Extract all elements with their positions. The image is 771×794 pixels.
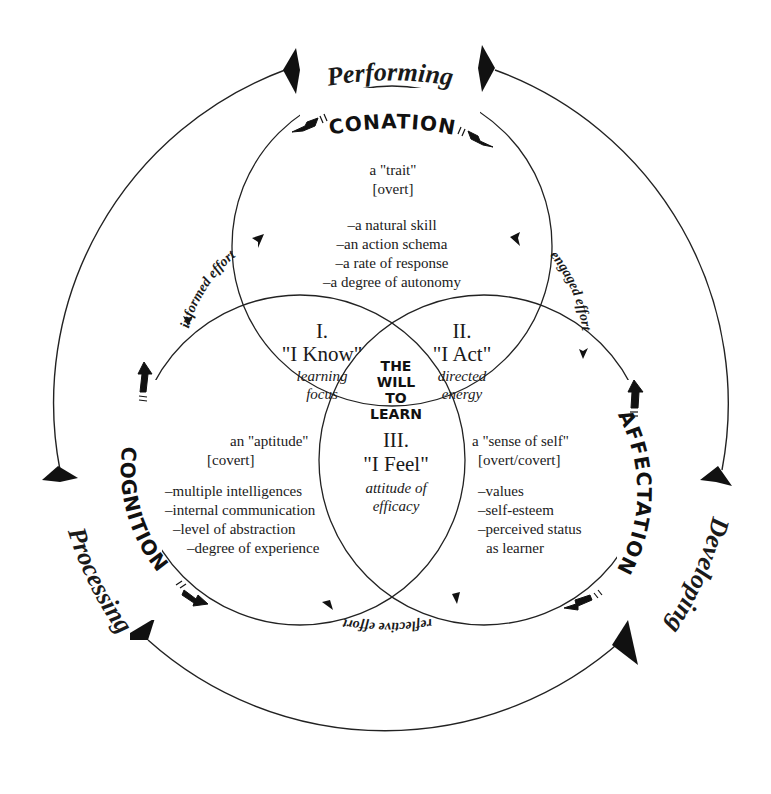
triangle-icon bbox=[579, 348, 588, 359]
informed-effort-label: informed effort bbox=[177, 246, 239, 329]
outer-arc-top-right bbox=[495, 70, 728, 470]
triangle-icon bbox=[322, 600, 333, 610]
conation-item: –an action schema bbox=[336, 236, 448, 252]
cognition-visibility: [covert] bbox=[207, 452, 254, 468]
intersection-title: "I Know" bbox=[282, 342, 363, 366]
developing-label: Developing bbox=[660, 513, 736, 639]
affectation-visibility: [overt/covert] bbox=[478, 452, 560, 468]
will-to-learn-center: THE WILL TO LEARN bbox=[370, 358, 422, 422]
center-line: THE bbox=[381, 358, 412, 374]
outer-arc-top-left bbox=[54, 70, 285, 470]
center-line: WILL bbox=[377, 374, 416, 390]
conation-item: –a rate of response bbox=[335, 255, 449, 271]
affectation-item: –values bbox=[477, 483, 524, 499]
outer-arc-bottom bbox=[148, 640, 622, 731]
triangle-icon bbox=[510, 232, 520, 246]
intersection-subtitle: energy bbox=[442, 386, 483, 402]
intersection-subtitle: attitude of bbox=[365, 480, 428, 496]
intersection-numeral: III. bbox=[383, 428, 409, 452]
intersection-subtitle: efficacy bbox=[373, 498, 420, 514]
affectation-item: –self-esteem bbox=[477, 502, 554, 518]
arrow-head-icon bbox=[283, 48, 300, 94]
arrow-head-icon bbox=[478, 45, 495, 92]
intersection-i-act: II. "I Act" directed energy bbox=[433, 319, 492, 402]
arrow-head-icon bbox=[700, 466, 732, 486]
triangle-icon bbox=[452, 592, 460, 604]
arrow-icon bbox=[468, 131, 493, 147]
triangle-icon bbox=[252, 234, 264, 248]
affectation-description: a "sense of self" [overt/covert] –values… bbox=[472, 433, 582, 556]
reflective-effort-label: reflective effort bbox=[341, 616, 434, 635]
intersection-i-feel: III. "I Feel" attitude of efficacy bbox=[363, 428, 429, 514]
intersection-subtitle: directed bbox=[438, 368, 487, 384]
center-line: LEARN bbox=[370, 406, 422, 422]
cognition-item: –internal communication bbox=[164, 502, 316, 518]
arrow-icon bbox=[182, 590, 208, 606]
conation-type: a "trait" bbox=[370, 162, 417, 178]
affectation-type: a "sense of self" bbox=[472, 433, 569, 449]
center-line: TO bbox=[385, 390, 407, 406]
intersection-title: "I Act" bbox=[433, 342, 492, 366]
conation-item: –a degree of autonomy bbox=[322, 274, 461, 290]
arrow-head-icon bbox=[612, 620, 638, 665]
cognition-type: an "aptitude" bbox=[230, 433, 308, 449]
intersection-subtitle: focus bbox=[306, 386, 338, 402]
cognition-item: –level of abstraction bbox=[172, 521, 296, 537]
affectation-item: as learner bbox=[486, 540, 544, 556]
conation-description: a "trait" [overt] –a natural skill –an a… bbox=[322, 162, 461, 290]
intersection-numeral: II. bbox=[452, 319, 471, 343]
intersection-subtitle: learning bbox=[297, 368, 348, 384]
will-to-learn-diagram: Performing Processing Developing CONATIO… bbox=[0, 0, 771, 794]
cognition-item: –multiple intelligences bbox=[164, 483, 302, 499]
arrow-head-icon bbox=[42, 466, 78, 482]
cognition-description: an "aptitude" [covert] –multiple intelli… bbox=[164, 433, 320, 556]
conation-item: –a natural skill bbox=[346, 217, 436, 233]
cognition-item: –degree of experience bbox=[186, 540, 320, 556]
intersection-i-know: I. "I Know" learning focus bbox=[282, 319, 363, 402]
intersection-title: "I Feel" bbox=[363, 452, 429, 476]
conation-visibility: [overt] bbox=[373, 181, 414, 197]
intersection-numeral: I. bbox=[316, 319, 328, 343]
affectation-item: –perceived status bbox=[477, 521, 582, 537]
